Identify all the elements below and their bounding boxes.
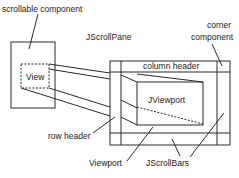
projection-line-2 [49, 69, 110, 79]
jscrollbars-leader-2 [190, 113, 224, 157]
jviewport-edge-top [121, 75, 137, 82]
viewport-leader [127, 127, 153, 161]
jviewport-edge-mid [121, 100, 137, 108]
scrollable-component-leader [29, 14, 38, 49]
jviewport-edge-back [137, 74, 203, 82]
scrollable-component-label: scrollable component [2, 4, 83, 14]
jviewport-edge-dashed [137, 107, 203, 124]
view-label: View [26, 72, 45, 82]
projection-line-1 [49, 64, 110, 73]
jviewport-label: JViewport [148, 95, 186, 105]
jscrollpane-diagram: View scrollable component JScrollPane co… [0, 0, 239, 178]
projection-line-4 [21, 88, 110, 116]
column-header-label: column header [143, 61, 199, 71]
jscrollpane-label: JScrollPane [86, 32, 132, 42]
row-header-label: row header [48, 131, 91, 141]
projection-line-3 [49, 88, 110, 107]
corner-component-label-2: component [191, 32, 234, 42]
jviewport-edge-bottom [121, 117, 137, 125]
row-header-leader [93, 117, 115, 133]
viewport-label: Viewport [89, 158, 123, 168]
jscrollbars-label: JScrollBars [146, 158, 189, 168]
jscrollbars-leader-1 [172, 139, 180, 156]
corner-component-label-1: corner [207, 20, 231, 30]
